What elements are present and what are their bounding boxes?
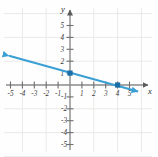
- axis-lines: [6, 10, 148, 150]
- y-tick-label: 4: [60, 34, 64, 42]
- y-tick-label: 5: [60, 22, 64, 30]
- x-tick-label: 3: [103, 90, 108, 98]
- x-tick-label: 5: [128, 90, 132, 98]
- y-tick-label: -4: [61, 129, 67, 137]
- x-tick-label: 4: [116, 90, 120, 98]
- graph-figure: -5 -4 -3 -2 -1 1 2 3 4 5 5 4 3 2 1 -1 -2…: [0, 0, 158, 157]
- x-tick-label: 2: [92, 90, 96, 98]
- y-tick-label: 3: [59, 46, 64, 54]
- y-tick-label: -3: [61, 117, 67, 125]
- point-marker-x-intercept: [115, 82, 120, 87]
- y-tick-label: -5: [61, 141, 67, 149]
- x-tick-label: -4: [19, 90, 25, 98]
- y-tick-label: -2: [61, 105, 67, 113]
- coordinate-plane-svg: -5 -4 -3 -2 -1 1 2 3 4 5 5 4 3 2 1 -1 -2…: [0, 0, 158, 157]
- y-tick-label: 2: [60, 58, 64, 66]
- x-tick-label: 1: [80, 90, 84, 98]
- x-tick-label: -3: [31, 90, 37, 98]
- point-marker-y-intercept: [67, 71, 72, 76]
- y-tick-label: -1: [61, 93, 67, 101]
- x-axis-label: x: [147, 86, 152, 96]
- y-axis-label: y: [60, 4, 65, 14]
- x-tick-label: -2: [43, 90, 49, 98]
- x-tick-label: -5: [8, 90, 14, 98]
